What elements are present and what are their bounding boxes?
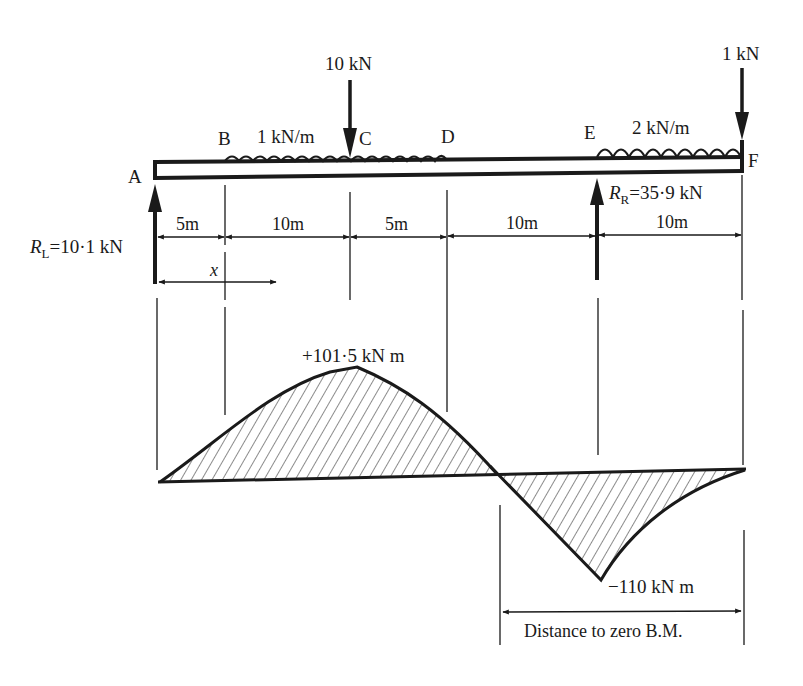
rl-subscript: L xyxy=(42,246,50,261)
reaction-right-label: RR=35·9 kN xyxy=(608,182,703,207)
udl-bd-label: 1 kN/m xyxy=(257,126,315,147)
guide-lines xyxy=(157,175,744,645)
point-d-label: D xyxy=(441,126,455,147)
rl-symbol: R xyxy=(29,236,42,257)
point-f-label: F xyxy=(748,150,759,171)
dim-ab: 5m xyxy=(176,214,199,234)
reaction-left-arrow xyxy=(148,184,162,284)
labels: 10 kN 1 kN A B C D E F 1 kN/m 2 kN/m 5m … xyxy=(29,43,760,641)
point-load-f-arrow xyxy=(735,68,749,140)
beam-diagram: 10 kN 1 kN A B C D E F 1 kN/m 2 kN/m 5m … xyxy=(0,0,803,686)
udl-ef-label: 2 kN/m xyxy=(632,117,690,138)
zero-bm-distance-arrow xyxy=(503,611,741,612)
rr-value: =35·9 kN xyxy=(629,182,703,203)
point-c-label: C xyxy=(359,128,372,149)
x-label: x xyxy=(209,260,218,280)
rr-subscript: R xyxy=(621,192,630,207)
rl-value: =10·1 kN xyxy=(50,236,124,257)
reaction-right-arrow xyxy=(590,178,604,280)
reaction-left-label: RL=10·1 kN xyxy=(29,236,123,261)
dim-ef: 10m xyxy=(656,212,688,232)
load-f-label: 1 kN xyxy=(722,43,760,64)
zero-bm-distance-label: Distance to zero B.M. xyxy=(524,621,682,641)
load-c-label: 10 kN xyxy=(325,53,372,74)
point-load-c-arrow xyxy=(343,80,357,158)
dim-bc: 10m xyxy=(272,214,304,234)
dim-cd: 5m xyxy=(385,214,408,234)
point-b-label: B xyxy=(218,128,231,149)
rr-symbol: R xyxy=(608,182,621,203)
bm-min-label: −110 kN m xyxy=(608,576,694,597)
point-e-label: E xyxy=(584,122,596,143)
dimension-line xyxy=(158,235,741,237)
dim-de: 10m xyxy=(506,213,538,233)
point-a-label: A xyxy=(128,166,142,187)
bm-max-label: +101·5 kN m xyxy=(302,345,405,366)
bending-moment-negative xyxy=(490,466,745,580)
